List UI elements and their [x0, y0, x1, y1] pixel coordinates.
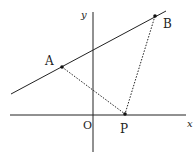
point-b	[153, 14, 157, 18]
point-a	[60, 65, 64, 69]
label-b: B	[163, 17, 172, 31]
point-p	[123, 112, 127, 116]
label-p: P	[120, 122, 128, 136]
line-ab	[11, 11, 166, 94]
label-y-axis: y	[80, 9, 87, 20]
label-origin: O	[83, 119, 92, 132]
coordinate-diagram: A B P O y x	[0, 0, 196, 154]
diagram-svg: A B P O y x	[0, 0, 196, 154]
label-a: A	[44, 54, 54, 68]
label-x-axis: x	[187, 118, 193, 129]
